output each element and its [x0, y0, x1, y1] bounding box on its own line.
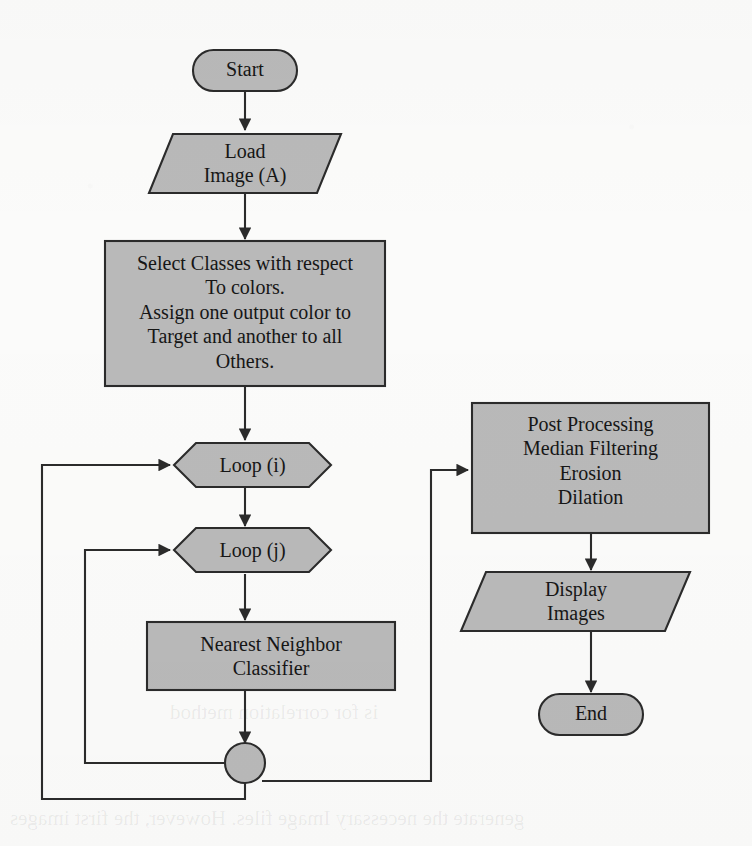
node-select-classes[interactable]	[105, 241, 385, 386]
node-end[interactable]	[539, 694, 643, 735]
node-load-image[interactable]	[149, 134, 341, 193]
flowchart-page: is for correlation method generate the n…	[0, 0, 752, 846]
node-loop-j[interactable]	[174, 528, 331, 572]
node-display-images[interactable]	[461, 572, 690, 631]
node-post-processing[interactable]	[472, 403, 709, 533]
node-start[interactable]	[193, 50, 297, 91]
node-loop-i[interactable]	[174, 443, 331, 487]
node-classifier[interactable]	[147, 622, 395, 690]
node-junction[interactable]	[225, 743, 265, 783]
